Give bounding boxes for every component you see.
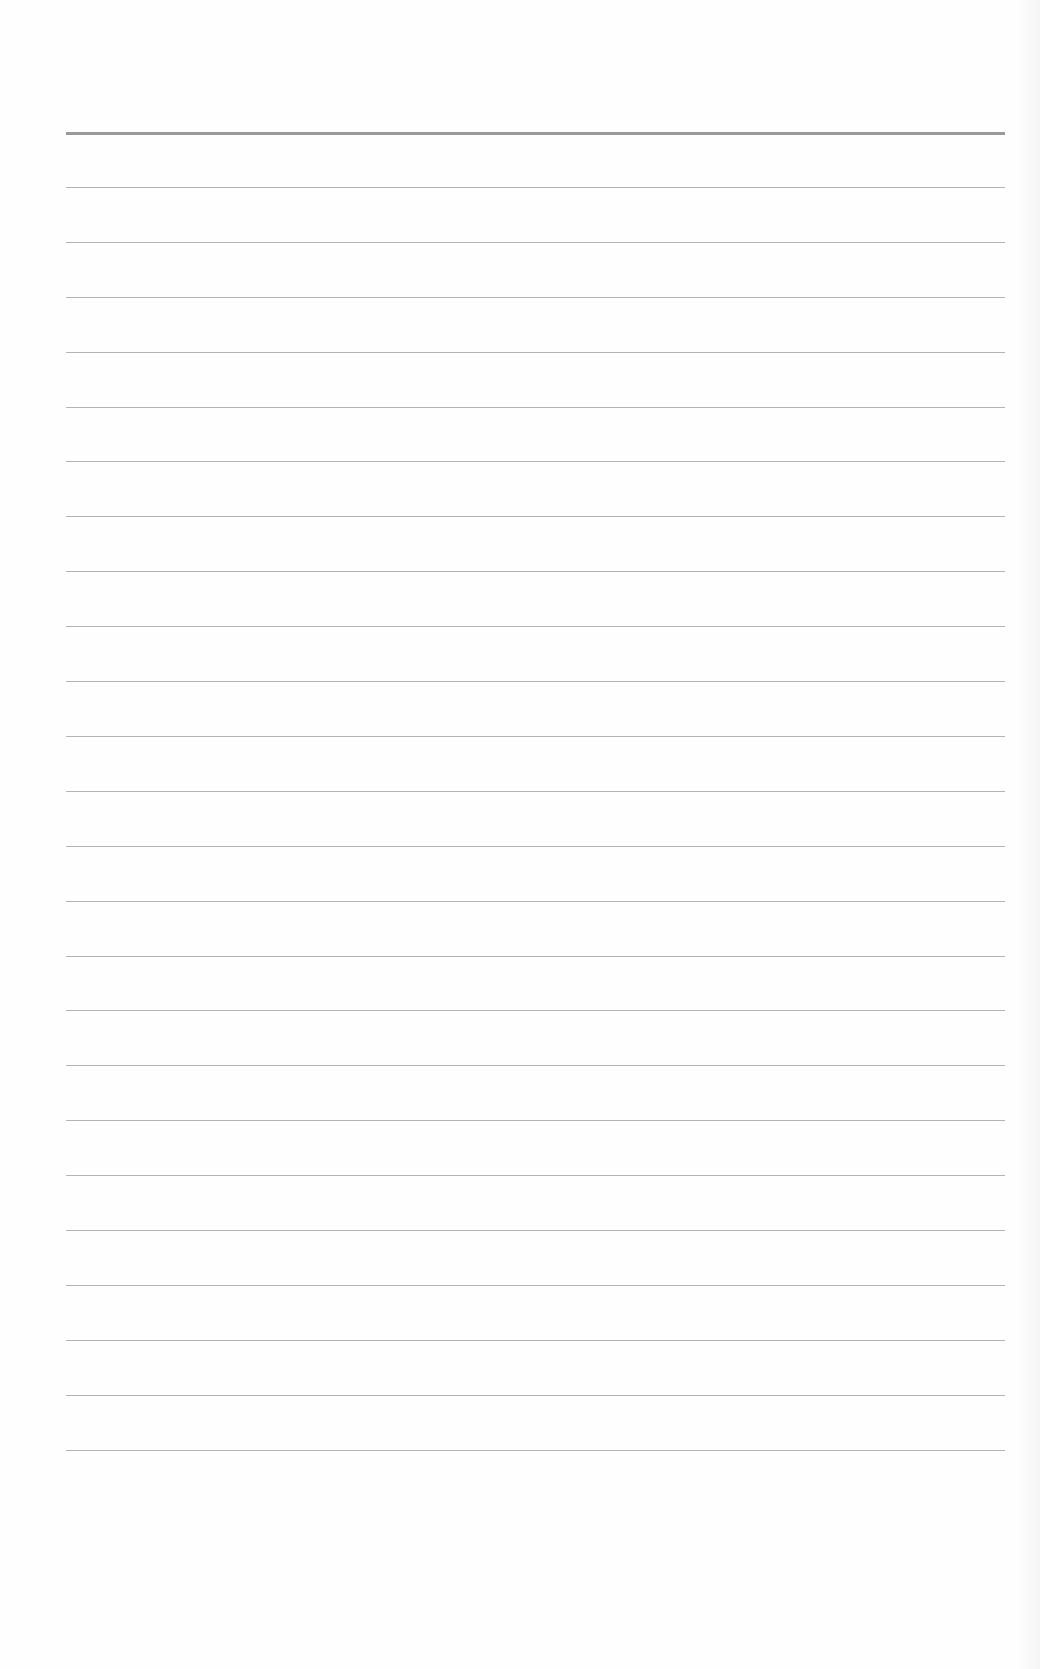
ruled-line: [66, 461, 1005, 462]
ruled-line: [66, 1010, 1005, 1011]
ruled-line: [66, 242, 1005, 243]
ruled-line: [66, 1450, 1005, 1451]
ruled-line: [66, 1065, 1005, 1066]
ruled-line: [66, 1175, 1005, 1176]
ruled-line: [66, 791, 1005, 792]
ruled-line: [66, 1395, 1005, 1396]
ruled-line: [66, 846, 1005, 847]
page-edge-shadow: [1018, 0, 1040, 1669]
header-rule-line: [66, 132, 1005, 135]
ruled-line: [66, 681, 1005, 682]
ruled-line: [66, 956, 1005, 957]
lined-paper-page: [0, 0, 1040, 1669]
ruled-line: [66, 1340, 1005, 1341]
ruled-line: [66, 736, 1005, 737]
ruled-line: [66, 352, 1005, 353]
ruled-line: [66, 1230, 1005, 1231]
ruled-line: [66, 626, 1005, 627]
ruled-line: [66, 407, 1005, 408]
ruled-line: [66, 187, 1005, 188]
ruled-line: [66, 571, 1005, 572]
ruled-line: [66, 1120, 1005, 1121]
ruled-line: [66, 1285, 1005, 1286]
ruled-line: [66, 901, 1005, 902]
ruled-line: [66, 516, 1005, 517]
ruled-line: [66, 297, 1005, 298]
